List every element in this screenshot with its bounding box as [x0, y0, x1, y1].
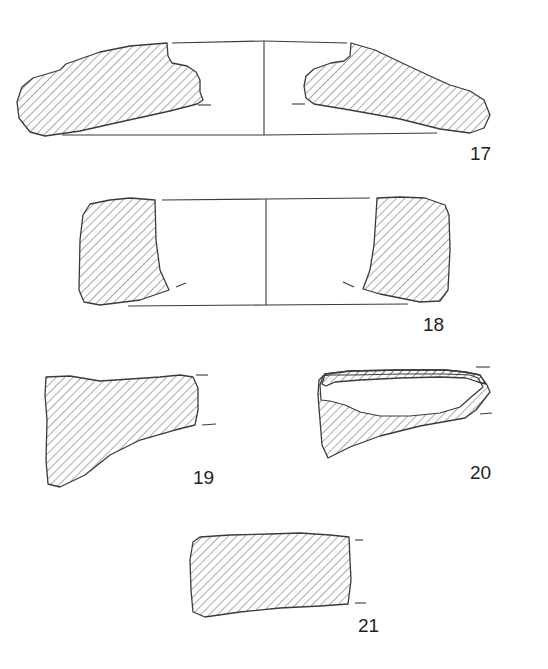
profile-21: 21: [190, 533, 379, 636]
break-tick: [343, 282, 354, 287]
profile-20: 20: [318, 367, 492, 483]
base-line-left: [128, 305, 266, 306]
sherd-21: [190, 533, 351, 617]
rim-line-right: [264, 41, 347, 43]
profile-19: 19: [45, 375, 216, 488]
figure-label-19: 19: [193, 467, 214, 488]
figure-label-17: 17: [470, 143, 491, 164]
rim-line-left: [172, 41, 264, 43]
break-tick: [176, 283, 186, 287]
sherd-17-left: [17, 43, 203, 136]
rim-line-left: [162, 199, 266, 200]
profile-17: 17: [17, 41, 491, 164]
sherd-19: [45, 375, 198, 487]
base-line-right: [264, 133, 437, 135]
sherd-18-left: [79, 198, 169, 305]
figure-label-18: 18: [423, 314, 444, 335]
rim-line-right: [266, 198, 370, 199]
profile-18: 18: [79, 197, 450, 335]
sherd-18-right-body: [363, 197, 450, 302]
drawing-plate: 17 18 19 20 21: [0, 0, 548, 669]
break-tick: [202, 424, 216, 425]
figure-label-20: 20: [470, 462, 491, 483]
figure-label-21: 21: [358, 615, 379, 636]
break-tick: [480, 413, 492, 414]
base-line-right: [266, 304, 408, 305]
sherd-17-right: [304, 43, 490, 133]
